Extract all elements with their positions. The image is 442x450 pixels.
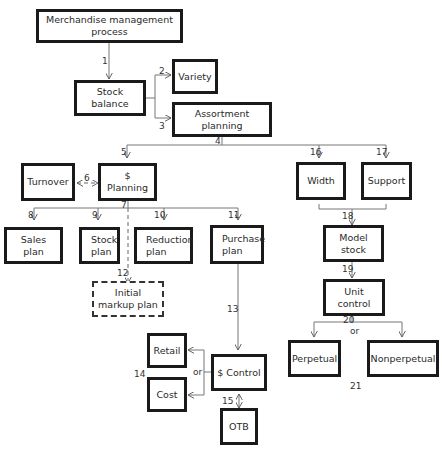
node-retail: Retail [147, 333, 187, 368]
edge-label-6: 6 [84, 173, 90, 183]
edge-label-16: 16 [310, 147, 321, 157]
node-perpetual: Perpetual [288, 340, 341, 377]
edge-label-10: 10 [154, 210, 165, 220]
edge-label-12: 12 [117, 268, 128, 278]
node-reduction-plan: Reduction plan [134, 227, 193, 264]
node-initial-markup-plan: Initial markup plan [92, 281, 164, 317]
edge-label-4: 4 [215, 136, 221, 146]
node-support: Support [361, 162, 412, 200]
edge-label-17: 17 [376, 147, 387, 157]
node-merchandise-management-process: Merchandise management process [36, 9, 183, 43]
edge-label-5: 5 [121, 147, 127, 157]
node-unit-control: Unit control [323, 279, 385, 316]
node-turnover: Turnover [21, 163, 75, 201]
node-stock-plan: Stock plan [79, 227, 120, 264]
edge-label-21: 21 [350, 381, 361, 391]
or-label-dollar-control: or [193, 367, 202, 377]
edge-label-3: 3 [159, 121, 165, 131]
edge-label-7: 7 [121, 200, 127, 210]
node-nonperpetual: Nonperpetual [367, 340, 439, 377]
node-assortment-planning: Assortment planning [172, 102, 272, 137]
edge-label-15: 15 [222, 396, 233, 406]
node-otb: OTB [220, 408, 258, 445]
edge-label-8: 8 [28, 210, 34, 220]
edge-label-19: 19 [342, 264, 353, 274]
edge-label-1: 1 [102, 56, 108, 66]
edge-label-11: 11 [228, 210, 239, 220]
edge-label-2: 2 [159, 66, 165, 76]
edge-label-14: 14 [134, 369, 145, 379]
node-stock-balance: Stock balance [74, 80, 146, 116]
edge-label-13: 13 [227, 304, 238, 314]
node-purchase-plan: Purchase plan [210, 225, 264, 264]
edge-label-20: 20 [343, 315, 354, 325]
node-width: Width [296, 162, 346, 200]
node-sales-plan: Sales plan [4, 227, 63, 264]
node-dollar-control: $ Control [211, 354, 267, 391]
node-variety: Variety [172, 59, 218, 94]
edge-label-18: 18 [342, 211, 353, 221]
node-cost: Cost [147, 377, 187, 412]
edge-label-9: 9 [92, 210, 98, 220]
node-dollar-planning: $ Planning [98, 163, 157, 201]
or-label-unit-control: or [350, 326, 359, 336]
node-model-stock: Model stock [323, 225, 384, 262]
